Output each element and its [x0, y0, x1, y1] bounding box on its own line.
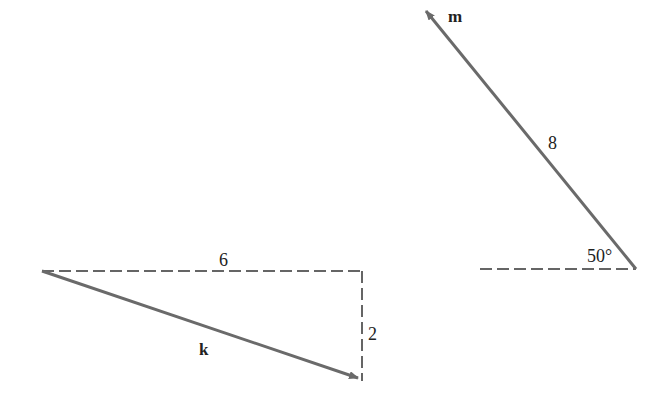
k-horizontal-length-label: 6 — [219, 251, 228, 269]
vector-k-label: k — [199, 341, 208, 358]
vector-k-arrow — [42, 271, 358, 378]
k-vertical-length-label: 2 — [368, 325, 377, 343]
vector-m-label: m — [448, 8, 462, 25]
vector-diagram — [0, 0, 669, 403]
m-magnitude-label: 8 — [548, 134, 557, 152]
vector-m-arrow — [426, 11, 636, 269]
m-angle-label: 50° — [587, 247, 612, 265]
